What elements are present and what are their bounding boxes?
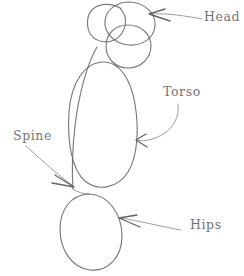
head-circle-shape [87,4,125,41]
hips-leader-line [120,218,181,230]
spine-hip-joint-shape [73,189,89,194]
hips-ellipse-shape [60,194,122,270]
spine-shape-group [72,47,97,194]
head-annotation-arrow [149,9,202,21]
spine-annotation-arrow [26,146,74,187]
head-cylinder-top-shape [105,2,155,45]
hips-annotation-arrow [119,215,181,230]
hips-shape-group [60,194,122,270]
label-spine: Spine [13,130,52,143]
torso-shape-group [69,62,138,187]
torso-ellipse-shape [69,62,138,187]
head-arrowhead-icon [149,9,170,21]
spine-arrowhead-icon [52,175,74,187]
label-head: Head [204,11,240,24]
label-hips: Hips [190,219,222,232]
label-torso: Torso [163,86,201,99]
spine-leader-line [26,146,73,186]
head-cylinder-bottom-shape [106,25,151,68]
head-shape-group [87,2,155,68]
sketch-canvas: Head Torso Spine Hips [0,0,244,276]
torso-annotation-arrow [136,104,178,147]
